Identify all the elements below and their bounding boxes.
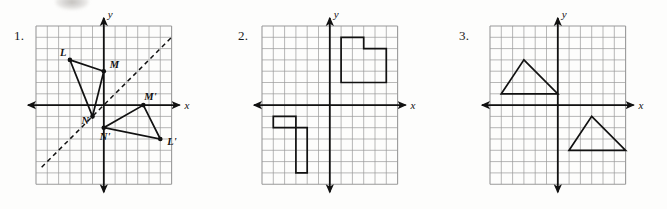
y-axis-label: y (107, 10, 113, 20)
problem-1: 1. xyLMNL'M'N' (0, 0, 230, 209)
L-shape-lower-left (273, 116, 307, 172)
problem-3-graph: xy (476, 10, 667, 200)
vertex-label-M-prime: M' (143, 91, 156, 102)
vertex-dot (102, 125, 107, 130)
x-axis-label: x (410, 99, 416, 111)
problem-2: 2. xy (230, 0, 450, 209)
vertex-dot (102, 69, 107, 74)
vertex-dot (90, 114, 95, 119)
triangle-lower-right-outline (569, 116, 626, 150)
problem-3: 3. xy (450, 0, 667, 209)
vertex-dot (141, 103, 146, 108)
worksheet-page: 1. xyLMNL'M'N' 2. xy 3. xy (0, 0, 667, 209)
triangle-LMN-outline (70, 60, 104, 117)
triangle-lower-right (569, 116, 626, 150)
vertex-label-L: L (59, 47, 66, 58)
triangle-upper-left (501, 60, 558, 94)
vertex-label-N: N (81, 115, 90, 126)
x-axis-label: x (184, 99, 190, 111)
vertex-label-M: M (109, 59, 120, 70)
vertex-dot (68, 58, 73, 63)
L-shape-lower-left-outline (273, 116, 307, 172)
problem-2-graph: xy (248, 10, 444, 200)
x-axis-label: x (638, 99, 644, 111)
triangle-LMN: LMN (59, 47, 120, 127)
triangle-upper-left-outline (501, 60, 558, 94)
y-axis-label: y (561, 10, 567, 20)
axes (482, 18, 634, 192)
problem-3-number: 3. (459, 28, 469, 44)
problem-1-graph: xyLMNL'M'N' (22, 10, 218, 200)
y-axis-label: y (333, 10, 339, 20)
triangle-L-prime-M-prime-N-prime-outline (104, 105, 161, 139)
axes (254, 18, 406, 192)
vertex-label-N-prime: N' (99, 131, 111, 142)
vertex-label-L-prime: L' (166, 136, 176, 147)
vertex-dot (158, 137, 163, 142)
problem-2-number: 2. (238, 28, 248, 44)
